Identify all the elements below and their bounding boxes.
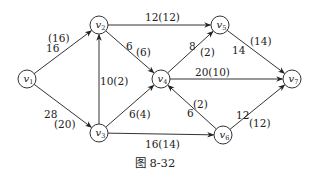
node-v5: v5: [211, 16, 229, 34]
edge-label-v5-v7: 14: [232, 44, 246, 56]
edge-label-v3-v2: 10(2): [100, 75, 128, 87]
edge-v3-v4: [106, 85, 154, 127]
edge-label-v3-v4: 6(4): [129, 108, 151, 120]
node-v6: v6: [214, 126, 232, 144]
node-v1: v1: [18, 70, 36, 88]
edge-label-v2-v4: 6: [126, 40, 133, 52]
edge-label-v2-v4: (6): [136, 46, 151, 58]
edge-label-v4-v5: 8: [189, 40, 196, 52]
node-v4: v4: [152, 70, 170, 88]
network-flow-diagram: (16)1628(20)10(2)12(12)6(6)6(4)8(2)20(10…: [0, 0, 311, 176]
edge-label-v1-v3: (20): [54, 118, 76, 130]
edge-label-v2-v5: 12(12): [145, 11, 180, 23]
edge-label-v4-v5: (2): [200, 46, 215, 58]
edge-label-v6-v4: 6: [187, 107, 194, 119]
node-v2: v2: [90, 16, 108, 34]
edge-label-v3-v6: 16(14): [145, 138, 180, 150]
edge-label-v6-v4: (2): [193, 98, 208, 110]
graph-svg: (16)1628(20)10(2)12(12)6(6)6(4)8(2)20(10…: [0, 0, 311, 176]
node-v7: v7: [283, 70, 301, 88]
edge-label-v6-v7: (12): [249, 117, 271, 129]
figure-caption: 图 8-32: [135, 156, 176, 170]
node-v3: v3: [90, 124, 108, 142]
edge-label-v6-v7: 12: [236, 109, 249, 121]
edge-label-v4-v7: 20(10): [195, 66, 230, 78]
edge-label-v1-v2: 16: [46, 42, 60, 54]
edge-v3-v6: [108, 133, 214, 135]
edge-label-v5-v7: (14): [250, 35, 272, 47]
